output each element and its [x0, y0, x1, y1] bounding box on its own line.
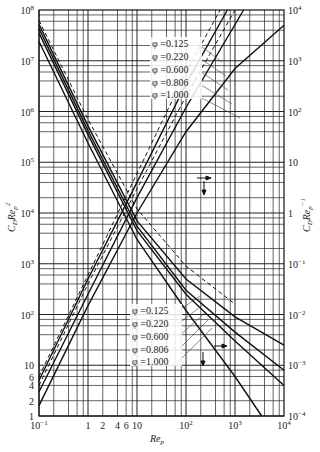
phi-label: φ =0.600	[132, 331, 168, 342]
phi-label: φ =0.125	[132, 305, 168, 316]
tick-label: 10	[24, 360, 34, 371]
phi-label: φ =0.125	[152, 38, 188, 49]
phi-label: φ =1.000	[132, 356, 168, 367]
tick-label: 102	[21, 309, 35, 321]
right-axis-arrow-icon	[197, 176, 211, 195]
tick-label: 1	[86, 420, 91, 431]
tick-label: 102	[288, 106, 302, 118]
tick-label: 102	[179, 419, 193, 431]
left-y-axis-tick-labels: 124610102103104105106107108	[21, 4, 35, 422]
phi-label: φ =0.220	[132, 318, 168, 329]
tick-label: 10−3	[288, 359, 306, 371]
x-axis-title: Rep	[149, 433, 165, 446]
phi-legend-lower: φ =0.125 φ =0.220 φ =0.600 φ =0.806 φ =1…	[130, 304, 182, 367]
tick-label: 107	[21, 55, 35, 67]
drag-coefficient-chart: 10−1124610102103104 12461010210310410510…	[0, 0, 320, 452]
phi-label: φ =0.220	[152, 51, 188, 62]
phi-label: φ =0.600	[152, 64, 188, 75]
tick-label: 10	[288, 157, 298, 168]
tick-label: 1	[29, 411, 34, 422]
x-axis-tick-labels: 10−1124610102103104	[30, 419, 291, 431]
phi-label: φ =1.000	[152, 89, 188, 100]
tick-label: 6	[29, 372, 34, 383]
tick-label: 4	[115, 420, 120, 431]
tick-label: 106	[21, 106, 35, 118]
left-y-axis-title: CDRep2	[4, 202, 19, 232]
tick-label: 103	[228, 419, 242, 431]
phi-label: φ =0.806	[152, 77, 188, 88]
tick-label: 108	[21, 4, 35, 16]
tick-label: 10−4	[288, 410, 306, 422]
tick-label: 10−1	[288, 258, 306, 270]
tick-label: 103	[21, 258, 35, 270]
tick-label: 2	[100, 420, 105, 431]
phi-label: φ =0.806	[132, 344, 168, 355]
tick-label: 104	[21, 207, 35, 219]
tick-label: 104	[288, 4, 302, 16]
tick-label: 2	[29, 396, 34, 407]
tick-label: 10	[132, 420, 142, 431]
tick-label: 105	[21, 156, 35, 168]
phi-legend-upper: φ =0.125 φ =0.220 φ =0.600 φ =0.806 φ =1…	[150, 37, 202, 100]
tick-label: 6	[124, 420, 129, 431]
tick-label: 103	[288, 55, 302, 67]
tick-label: 10−2	[288, 309, 306, 321]
right-y-axis-title: CDRep−1	[299, 198, 314, 232]
tick-label: 1	[288, 208, 293, 219]
